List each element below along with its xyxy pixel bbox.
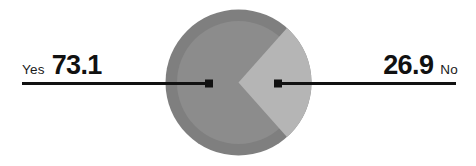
pie-chart-graphic (0, 0, 476, 166)
callout-yes: Yes 73.1 (22, 52, 102, 79)
callout-no: 26.9 No (383, 52, 458, 79)
pie-chart-infographic: Yes 73.1 26.9 No (0, 0, 476, 166)
callout-yes-value: 73.1 (52, 52, 102, 79)
callout-no-value: 26.9 (383, 52, 433, 79)
callout-yes-category: Yes (22, 63, 45, 77)
leader-dot-yes (205, 80, 213, 88)
callout-no-category: No (440, 63, 458, 77)
leader-dot-no (274, 80, 282, 88)
